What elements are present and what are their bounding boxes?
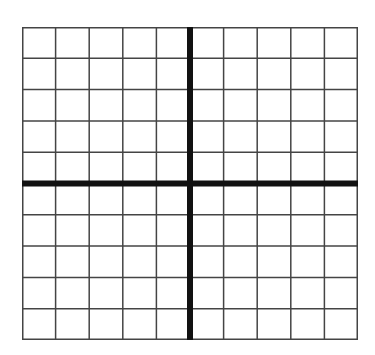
coordinate-grid — [22, 27, 358, 340]
